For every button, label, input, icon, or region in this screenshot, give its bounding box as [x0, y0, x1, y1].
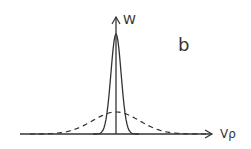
diagram-canvas: W Vρ b [0, 0, 251, 149]
panel-label: b [178, 34, 189, 55]
broad-dashed-curve [30, 112, 206, 134]
x-axis-label: Vρ [220, 127, 236, 141]
y-axis-label: W [123, 12, 136, 27]
